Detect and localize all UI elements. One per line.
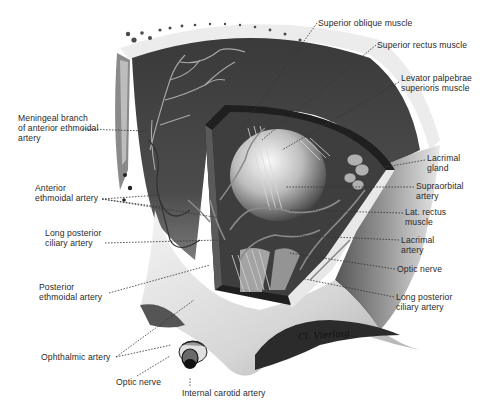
eyeball: [230, 129, 326, 221]
label-superior-rectus-muscle: Superior rectus muscle: [377, 40, 467, 50]
anatomical-illustration: Meningeal branch of anterior ethmoidal a…: [0, 0, 486, 407]
label-ophthalmic-artery: Ophthalmic artery: [41, 352, 111, 362]
optic-canal: [179, 341, 207, 369]
label-levator-palpebrae: Levator palpebrae superioris muscle: [401, 73, 472, 93]
label-lacrimal-gland: Lacrimal gland: [427, 153, 460, 173]
orbit-illustration: [0, 0, 486, 407]
label-internal-carotid-artery: Internal carotid artery: [182, 388, 266, 398]
label-lacrimal-artery: Lacrimal artery: [401, 235, 434, 255]
leader-optic-nerve-bottom: [137, 356, 170, 376]
label-supraorbital-artery: Supraorbital artery: [416, 181, 464, 201]
label-long-posterior-ciliary-artery-left: Long posterior ciliary artery: [45, 228, 101, 248]
label-long-posterior-ciliary-artery-right: Long posterior ciliary artery: [396, 292, 452, 312]
label-superior-oblique-muscle: Superior oblique muscle: [318, 18, 413, 28]
label-meningeal-branch: Meningeal branch of anterior ethmoidal a…: [18, 113, 98, 143]
label-anterior-ethmoidal-artery: Anterior ethmoidal artery: [35, 183, 98, 203]
label-lat-rectus-muscle: Lat. rectus muscle: [405, 207, 446, 227]
label-optic-nerve-right: Optic nerve: [397, 264, 442, 274]
label-optic-nerve-bottom: Optic nerve: [116, 377, 161, 387]
label-posterior-ethmoidal-artery: Posterior ethmoidal artery: [39, 282, 102, 302]
